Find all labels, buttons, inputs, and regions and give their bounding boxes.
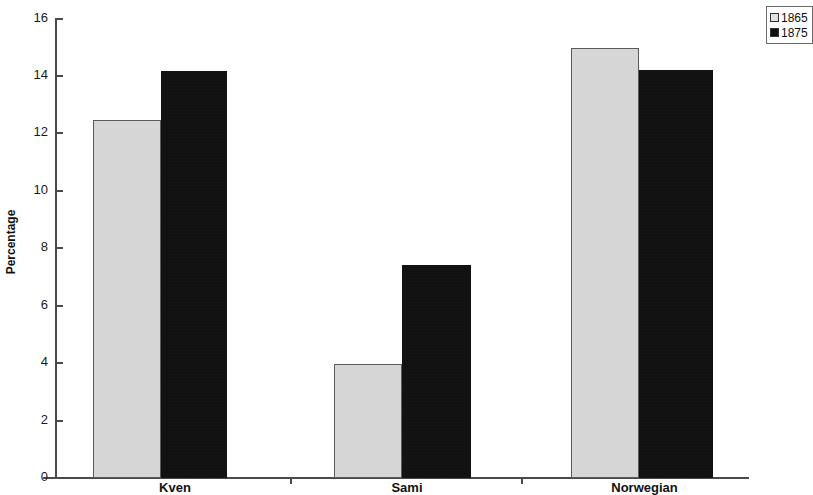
y-tick-10	[57, 190, 63, 192]
x-axis-label-norwegian: Norwegian	[587, 481, 702, 495]
legend-item-1875: 1875	[770, 25, 808, 40]
chart-legend: 1865 1875	[766, 6, 813, 44]
y-tick-label-4: 4	[8, 355, 48, 368]
y-tick-label-6: 6	[8, 298, 48, 311]
chart-page: Percentage 16 14 12 10 8 6 4 2 0	[0, 0, 813, 495]
y-tick-14	[57, 75, 63, 77]
y-tick-2	[57, 420, 63, 422]
bar-sami-1875	[402, 265, 471, 478]
x-tick-separator-1	[290, 478, 292, 484]
bar-norwegian-1875	[639, 70, 713, 478]
bar-chart-plot-area: Percentage 16 14 12 10 8 6 4 2 0	[0, 0, 813, 495]
bar-kven-1865	[93, 120, 161, 478]
y-tick-label-16: 16	[8, 11, 48, 24]
y-tick-8	[57, 247, 63, 249]
y-tick-label-14: 14	[8, 68, 48, 81]
bar-sami-1865	[334, 364, 402, 478]
y-tick-12	[57, 132, 63, 134]
y-tick-label-0: 0	[8, 470, 48, 483]
legend-swatch-icon-1865	[770, 13, 779, 22]
x-tick-separator-2	[521, 478, 523, 484]
y-tick-label-2: 2	[8, 413, 48, 426]
bar-kven-1875	[161, 71, 227, 478]
legend-label-1865: 1865	[781, 12, 808, 24]
y-tick-6	[57, 305, 63, 307]
y-tick-label-8: 8	[8, 240, 48, 253]
bar-norwegian-1865	[571, 48, 639, 478]
y-tick-16	[57, 18, 63, 20]
x-axis-label-kven: Kven	[120, 481, 230, 495]
legend-label-1875: 1875	[781, 27, 808, 39]
y-tick-label-10: 10	[8, 183, 48, 196]
legend-swatch-icon-1875	[770, 28, 779, 37]
legend-item-1865: 1865	[770, 10, 808, 25]
x-axis-label-sami: Sami	[352, 481, 462, 495]
y-tick-0	[57, 477, 63, 479]
y-tick-label-12: 12	[8, 125, 48, 138]
y-tick-4	[57, 362, 63, 364]
